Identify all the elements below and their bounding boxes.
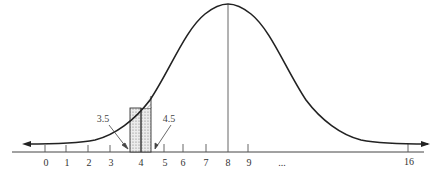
tick-label-2: 2	[87, 157, 92, 168]
normal-curve	[26, 4, 428, 144]
tick-label-6: 6	[181, 157, 186, 168]
normal-approximation-diagram: 3.5 4.5 0 1 2 3 4 5 6 7 8 9 ... 16	[0, 0, 436, 176]
tick-label-7: 7	[204, 157, 209, 168]
upper-bound-label: 4.5	[163, 113, 176, 124]
tick-label-1: 1	[65, 157, 70, 168]
right-arrow-icon	[421, 141, 430, 147]
tick-labels: 0 1 2 3 4 5 6 7 8 9 ... 16	[44, 156, 415, 168]
tick-label-16: 16	[404, 156, 414, 167]
left-arrow-icon	[22, 141, 31, 147]
tick-label-9: 9	[247, 157, 252, 168]
tick-label-ellipsis: ...	[278, 157, 286, 168]
highlighted-bar	[130, 96, 151, 152]
tick-label-4: 4	[139, 157, 144, 168]
axis-ticks	[45, 144, 408, 152]
lower-bound-label: 3.5	[97, 113, 110, 124]
tick-label-8: 8	[226, 157, 231, 168]
tick-label-5: 5	[163, 157, 168, 168]
tick-label-3: 3	[109, 157, 114, 168]
tick-label-0: 0	[44, 157, 49, 168]
